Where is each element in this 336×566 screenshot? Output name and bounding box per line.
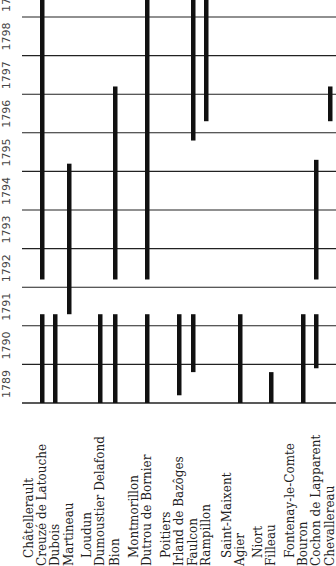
person-label: Martineau [62, 502, 76, 566]
district-label: Saint-Maixent [220, 472, 234, 558]
person-label: Dubois [48, 524, 62, 566]
timeline-bar [145, 0, 150, 279]
person-label: Cochon de Lapparent [309, 435, 323, 566]
timeline-bar [204, 0, 209, 121]
timeline-bar [314, 314, 319, 368]
timeline-bar [191, 0, 196, 141]
district-label: Loudun [80, 512, 94, 558]
year-tick-label: 1792 [0, 254, 13, 282]
person-label: Filleau [264, 524, 278, 566]
district-label: Niort [251, 526, 265, 558]
timeline-bar [40, 0, 45, 279]
person-label: Chevallereau [323, 485, 336, 566]
year-tick-label: 1795 [0, 138, 13, 166]
timeline-bar [314, 160, 319, 280]
timeline-bar [40, 314, 45, 403]
timeline-bar [301, 314, 306, 403]
timeline-bar [145, 314, 150, 403]
person-label: Irland de Bazôges [172, 456, 186, 566]
person-label: Agier [233, 533, 247, 566]
timeline-chart: 1789179017911792179317941795179617971798… [0, 0, 336, 566]
person-label: Bouron [296, 521, 310, 566]
timeline-bar [177, 314, 182, 395]
person-label: Faulcon [186, 518, 200, 566]
timeline-bar [238, 314, 243, 403]
person-label: Bion [108, 538, 122, 566]
year-tick-label: 1789 [0, 370, 13, 398]
timeline-bar [191, 314, 196, 372]
district-label: Châtellerault [22, 478, 36, 558]
year-tick-label: 1793 [0, 216, 13, 244]
district-label: Poitiers [159, 512, 173, 558]
person-label: Rampillon [199, 504, 213, 566]
year-tick-label: 1790 [0, 331, 13, 359]
year-tick-label: 1797 [0, 61, 13, 89]
timeline-bar [328, 86, 333, 121]
person-label: Dutrou de Bornier [140, 454, 154, 566]
year-tick-label: 1796 [0, 100, 13, 128]
timeline-bar [67, 164, 72, 315]
timeline-bar [113, 86, 118, 279]
person-label: Creuzé de Latouche [35, 444, 49, 566]
timeline-bar [53, 314, 58, 403]
timeline-bar [98, 314, 103, 403]
district-label: Montmorillon [127, 475, 141, 558]
year-tick-label: 1799 [0, 0, 13, 12]
timeline-bar [113, 314, 118, 403]
timeline-bar [269, 372, 274, 403]
year-tick-label: 1794 [0, 177, 13, 205]
year-tick-label: 1798 [0, 23, 13, 51]
person-label: Dumoustier Delafond [93, 436, 107, 566]
year-tick-label: 1791 [0, 293, 13, 321]
district-label: Fontenay-le-Comte [283, 443, 297, 558]
